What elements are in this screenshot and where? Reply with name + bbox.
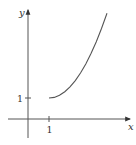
y-tick-label-1: 1 <box>17 93 23 104</box>
chart: y x 1 1 <box>0 0 136 145</box>
x-tick-label-1: 1 <box>47 124 53 135</box>
curve-line <box>49 13 107 98</box>
x-axis-label: x <box>128 121 134 132</box>
y-axis-label: y <box>18 7 25 18</box>
